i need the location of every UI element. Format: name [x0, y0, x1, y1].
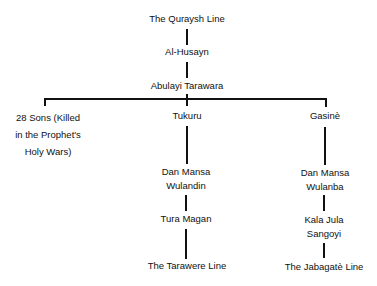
- connector-line: [185, 195, 187, 211]
- node-tarawere-line: The Tarawere Line: [148, 259, 227, 273]
- node-abulayi-tarawara: Abulayi Tarawara: [151, 79, 224, 93]
- node-tura-magan: Tura Magan: [161, 212, 212, 226]
- node-28-sons-line1: 28 Sons (Killed: [15, 109, 81, 126]
- node-kala-jula-sangoyi: Kala Jula Sangoyi: [304, 213, 343, 241]
- node-dan-mansa-wulanba-line2: Wulanba: [301, 180, 350, 194]
- node-dan-mansa-wulanba: Dan Mansa Wulanba: [301, 166, 350, 194]
- node-kala-jula-sangoyi-line2: Sangoyi: [304, 227, 343, 241]
- node-28-sons-line2: in the Prophet's: [15, 126, 81, 143]
- node-jabagate-line: The Jabagatè Line: [285, 260, 364, 274]
- connector-line: [325, 98, 327, 107]
- connector-line: [185, 229, 187, 259]
- connector-line: [186, 126, 188, 164]
- connector-line: [44, 98, 46, 106]
- node-dan-mansa-wulandin-line2: Wulandin: [162, 179, 211, 193]
- connector-line: [323, 243, 325, 258]
- connector-line: [323, 195, 325, 211]
- node-28-sons: 28 Sons (Killed in the Prophet's Holy Wa…: [15, 109, 81, 160]
- connector-line: [186, 29, 188, 45]
- connector-line: [186, 98, 188, 106]
- node-28-sons-line3: Holy Wars): [15, 143, 81, 160]
- connector-line: [324, 127, 326, 165]
- node-dan-mansa-wulanba-line1: Dan Mansa: [301, 166, 350, 180]
- connector-line: [186, 62, 188, 78]
- node-kala-jula-sangoyi-line1: Kala Jula: [304, 213, 343, 227]
- node-al-husayn: Al-Husayn: [165, 45, 209, 59]
- node-quraysh-line: The Quraysh Line: [149, 12, 225, 26]
- node-gasine: Gasinè: [310, 109, 340, 123]
- node-dan-mansa-wulandin: Dan Mansa Wulandin: [162, 165, 211, 193]
- node-tukuru: Tukuru: [172, 109, 201, 123]
- node-dan-mansa-wulandin-line1: Dan Mansa: [162, 165, 211, 179]
